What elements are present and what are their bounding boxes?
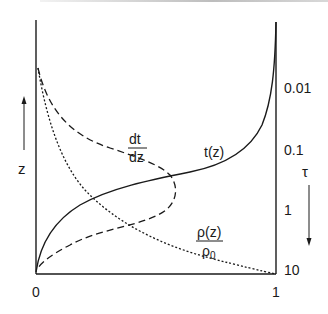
rho-label-denominator: ρ0 xyxy=(202,243,216,261)
rho-label-numerator: ρ(z) xyxy=(197,224,221,240)
tau-tick-1: 1 xyxy=(284,202,292,218)
x-tick-1: 1 xyxy=(272,284,280,300)
tau-tick-10: 10 xyxy=(284,262,300,278)
dtdz-label-numerator: dt xyxy=(129,131,141,147)
tau-tick-0.01: 0.01 xyxy=(284,80,311,96)
tau-tick-0.1: 0.1 xyxy=(284,142,304,158)
t-curve-label: t(z) xyxy=(204,144,224,160)
rho-curve xyxy=(38,68,276,274)
z-arrow-head-icon xyxy=(22,96,27,104)
tau-axis-label: τ xyxy=(302,163,308,180)
z-axis-label: z xyxy=(18,160,26,177)
t-curve xyxy=(36,22,276,272)
dtdz-label-denominator: dz xyxy=(129,149,144,165)
atmosphere-diagram: z τ 0.01 0.1 1 10 0 1 dt dz t(z) ρ(z) ρ0 xyxy=(0,0,328,314)
x-tick-0: 0 xyxy=(32,284,40,300)
tau-arrow-head-icon xyxy=(307,238,312,246)
